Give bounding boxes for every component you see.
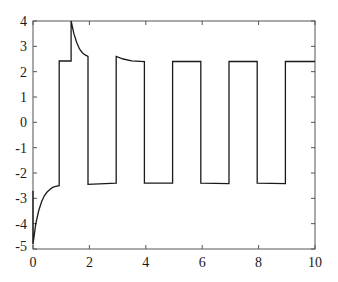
x-axis-labels: 0246810 xyxy=(30,255,323,270)
x-tick-label: 2 xyxy=(86,255,93,270)
y-tick-label: -5 xyxy=(15,239,27,254)
y-tick-label: 4 xyxy=(20,14,27,29)
x-tick-label: 8 xyxy=(255,255,262,270)
x-axis-ticks-top xyxy=(33,21,315,25)
y-tick-label: -1 xyxy=(15,141,27,156)
plot-frame xyxy=(33,21,315,249)
y-tick-label: 2 xyxy=(20,65,27,80)
y-tick-label: -3 xyxy=(15,191,27,206)
line-chart: 43210-1-2-3-4-5 0246810 xyxy=(0,0,338,282)
x-tick-label: 0 xyxy=(30,255,37,270)
y-tick-label: -4 xyxy=(15,217,27,232)
y-tick-label: 0 xyxy=(20,115,27,130)
x-tick-label: 6 xyxy=(199,255,206,270)
y-tick-label: 1 xyxy=(20,90,27,105)
x-tick-label: 4 xyxy=(142,255,149,270)
y-axis-ticks-right xyxy=(311,21,315,249)
signal-line xyxy=(33,21,315,244)
y-tick-label: -2 xyxy=(15,166,27,181)
y-tick-label: 3 xyxy=(20,39,27,54)
x-axis-ticks-bottom xyxy=(33,245,315,249)
y-axis-labels: 43210-1-2-3-4-5 xyxy=(15,14,27,254)
x-tick-label: 10 xyxy=(308,255,322,270)
